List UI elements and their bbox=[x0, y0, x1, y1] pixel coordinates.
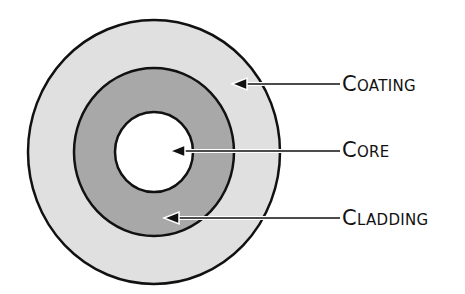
fiber-cross-section-diagram: Coating Core Cladding bbox=[0, 0, 465, 294]
coating-label-text: Coating bbox=[342, 72, 416, 96]
cladding-label: Cladding bbox=[342, 208, 428, 229]
coating-label: Coating bbox=[342, 74, 416, 95]
core-label: Core bbox=[342, 140, 390, 161]
core-label-text: Core bbox=[342, 138, 390, 162]
diagram-graphic bbox=[0, 0, 465, 294]
cladding-label-text: Cladding bbox=[342, 206, 428, 230]
